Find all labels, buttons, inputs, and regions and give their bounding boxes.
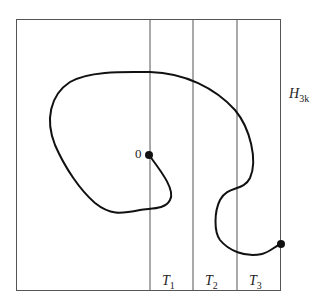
origin-point — [145, 151, 153, 159]
origin-label: 0 — [135, 146, 142, 162]
region-label: H3k — [289, 86, 309, 104]
path-curve — [50, 72, 281, 255]
strip-label-t2: T2 — [205, 273, 218, 291]
strip-label-t1: T1 — [162, 273, 175, 291]
diagram-canvas — [0, 0, 326, 306]
end-point — [277, 240, 285, 248]
strip-label-t3: T3 — [249, 273, 262, 291]
